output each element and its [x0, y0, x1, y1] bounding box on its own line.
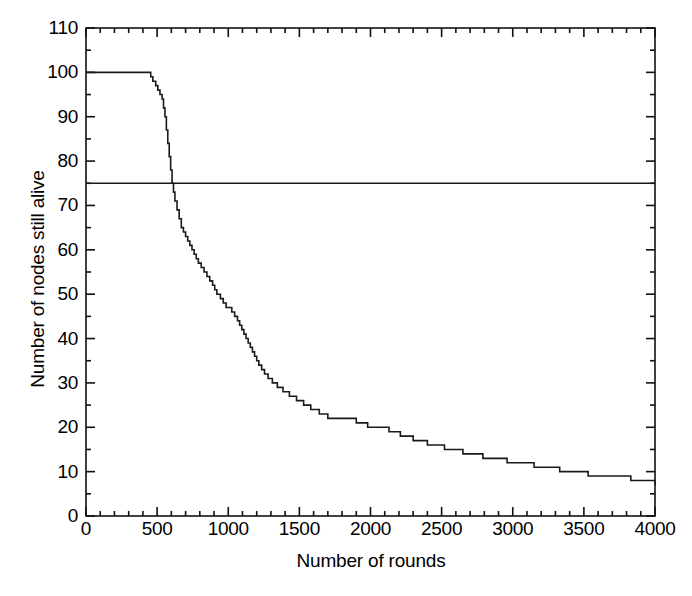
plot-border [86, 28, 655, 516]
survival-step-line [86, 72, 655, 485]
survival-curve-figure: Number of nodes still alive Number of ro… [0, 0, 692, 596]
series-nodes-alive [86, 72, 655, 485]
plot-canvas [0, 0, 692, 596]
x-axis-ticks [86, 28, 655, 516]
axis-frame [86, 28, 655, 516]
y-axis-ticks [86, 28, 655, 516]
